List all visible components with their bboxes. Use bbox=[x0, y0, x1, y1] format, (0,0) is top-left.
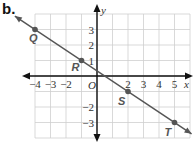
y-tick-label: 3 bbox=[89, 24, 95, 36]
y-axis-arrow-up bbox=[94, 4, 101, 12]
y-tick-label: −3 bbox=[82, 117, 94, 129]
point-label-r: R bbox=[72, 61, 80, 73]
x-tick-label: −2 bbox=[60, 78, 72, 90]
x-axis-label: x bbox=[183, 78, 189, 90]
line-arrowhead bbox=[184, 127, 191, 133]
line-arrowhead bbox=[15, 16, 22, 22]
x-tick-label: 5 bbox=[172, 78, 178, 90]
x-tick-label: −4 bbox=[29, 78, 41, 90]
x-tick-label: 4 bbox=[156, 78, 162, 90]
figure-label: b. bbox=[2, 0, 15, 17]
axes bbox=[22, 4, 193, 142]
y-tick-label: 1 bbox=[89, 55, 95, 67]
x-tick-label: −3 bbox=[45, 78, 57, 90]
coordinate-plane: −4−3−22345321−2−3 QRST b. y x O bbox=[0, 0, 195, 146]
point-t bbox=[172, 120, 178, 126]
origin-label: O bbox=[88, 79, 96, 91]
x-tick-label: 3 bbox=[141, 78, 147, 90]
point-s bbox=[125, 89, 131, 95]
point-label-q: Q bbox=[29, 32, 38, 44]
point-label-s: S bbox=[118, 95, 126, 107]
y-axis-label: y bbox=[100, 4, 106, 16]
point-r bbox=[79, 58, 85, 64]
line-segment bbox=[15, 16, 192, 134]
line-qt bbox=[15, 16, 192, 134]
y-tick-label: 2 bbox=[89, 39, 95, 51]
point-label-t: T bbox=[165, 126, 173, 138]
y-tick-label: −2 bbox=[82, 101, 94, 113]
x-tick-label: 2 bbox=[125, 78, 131, 90]
